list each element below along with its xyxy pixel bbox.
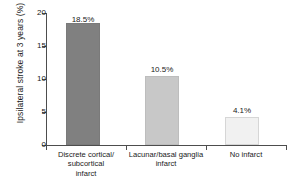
x-category-label-1-line-1: Discrete cortical/	[46, 150, 126, 159]
bar-no-infarct[interactable]	[225, 117, 259, 145]
x-category-label-2-line-2: infarct	[124, 159, 208, 168]
x-category-label-2-line-1: Lacunar/basal ganglia	[124, 150, 208, 159]
x-category-label-2: Lacunar/basal ganglia infarct	[124, 150, 208, 169]
bar-discrete-cortical-subcortical-infarct[interactable]	[66, 23, 100, 145]
y-tick-label: 20	[18, 8, 46, 17]
y-tick-15: 15	[0, 46, 46, 47]
x-category-label-1: Discrete cortical/ subcortical infarct	[46, 150, 126, 178]
x-category-label-3-line-1: No infarct	[206, 150, 286, 159]
y-tick-label: 15	[18, 41, 46, 50]
y-tick-label: 5	[18, 107, 46, 116]
bar-chart: Ipsilateral stroke at 3 years (%) 0 5 10…	[0, 0, 297, 187]
bar-value-1: 18.5%	[56, 15, 110, 24]
x-category-label-1-line-3: infarct	[46, 169, 126, 178]
bar-value-3: 4.1%	[215, 106, 269, 115]
y-tick-label: 0	[18, 140, 46, 149]
y-tick-label: 10	[18, 74, 46, 83]
y-axis-line	[46, 13, 47, 145]
y-tick-5: 5	[0, 112, 46, 113]
x-category-label-3: No infarct	[206, 150, 286, 159]
y-tick-20: 20	[0, 13, 46, 14]
x-axis-line	[46, 145, 287, 146]
y-axis-title: Ipsilateral stroke at 3 years (%)	[15, 0, 25, 138]
bar-value-2: 10.5%	[135, 65, 189, 74]
y-tick-0: 0	[0, 145, 46, 146]
x-category-label-1-line-2: subcortical	[46, 159, 126, 168]
bar-lacunar-basal-ganglia-infarct[interactable]	[145, 76, 179, 145]
y-tick-10: 10	[0, 79, 46, 80]
x-tick-end	[286, 146, 287, 150]
